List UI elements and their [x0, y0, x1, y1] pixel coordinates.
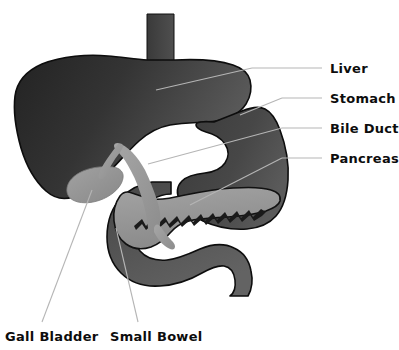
- leader-line-gall-bladder: [42, 190, 92, 322]
- label-small-bowel: Small Bowel: [110, 330, 203, 343]
- organ-pancreas: [114, 187, 280, 248]
- label-bile-duct: Bile Duct: [330, 122, 399, 135]
- diagram-canvas: Liver Stomach Bile Duct Pancreas Gall Bl…: [0, 0, 399, 350]
- label-liver: Liver: [330, 62, 368, 75]
- label-gall-bladder: Gall Bladder: [5, 330, 98, 343]
- label-pancreas: Pancreas: [330, 152, 399, 165]
- label-stomach: Stomach: [330, 92, 396, 105]
- organ-esophagus: [147, 14, 174, 62]
- anatomy-illustration: [0, 0, 399, 350]
